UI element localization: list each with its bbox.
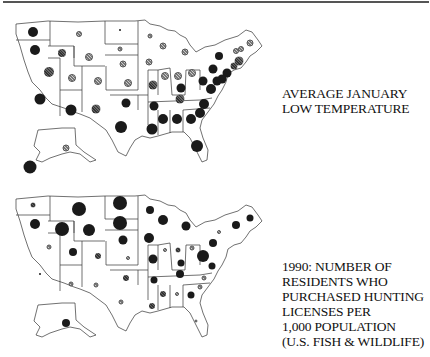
label-line: 1990: NUMBER OF [282,259,424,274]
state-symbol-il [163,248,167,252]
us-outline-bottom [0,0,270,357]
state-symbol-co [95,253,101,259]
state-symbol-mn [146,206,154,214]
state-symbol-la [149,303,155,309]
state-symbol-ky [178,260,185,267]
state-symbol-vt [232,221,240,229]
label-line: RESIDENTS WHO [282,274,424,289]
label-line: LICENSES PER [282,304,424,319]
state-symbol-fl [195,320,198,323]
state-symbol-id [55,222,69,236]
state-symbol-nc [202,276,207,281]
state-symbol-az [69,282,74,287]
state-symbol-mi [182,222,191,231]
state-symbol-ar [151,277,158,284]
state-symbol-tx [119,300,124,305]
state-symbol-ms [160,291,166,297]
label-line: AVERAGE JANUARY [282,86,409,101]
state-symbol-ca [39,273,41,275]
state-symbol-pa [209,239,217,247]
hunting-license-map-label: 1990: NUMBER OF RESIDENTS WHO PURCHASED … [282,259,424,349]
state-symbol-ny [217,230,221,234]
state-symbol-ia [144,233,154,243]
label-line: 1,000 POPULATION [282,319,424,334]
state-symbol-nv [47,245,52,250]
temperature-map-label: AVERAGE JANUARY LOW TEMPERATURE [282,86,409,116]
state-symbol-sd [113,216,127,230]
hunting-license-map [0,0,270,357]
state-symbol-wi [158,215,168,225]
state-symbol-me [247,215,254,222]
label-line: PURCHASED HUNTING [282,289,424,304]
state-symbol-al [175,292,179,296]
state-symbol-ne [119,236,128,245]
label-line: (U.S. FISH & WILDLIFE) [282,334,424,349]
state-symbol-va [209,263,216,270]
state-symbol-ut [69,248,77,256]
state-symbol-sc [198,285,203,290]
state-symbol-mt [72,202,86,216]
state-symbol-ga [188,292,195,299]
state-symbol-tn [176,270,184,278]
state-symbol-or [30,219,40,229]
state-symbol-wv [197,250,209,262]
state-symbol-nd [113,196,127,210]
state-symbol-oh [190,246,195,251]
state-symbol-in [176,248,181,253]
state-symbol-mo [149,255,158,264]
state-symbol-ok [123,275,129,281]
state-symbol-nm [94,283,99,288]
state-symbol-wy [83,224,95,236]
label-line: LOW TEMPERATURE [282,101,409,116]
state-symbol-ks [126,256,130,260]
state-symbol-ak [62,319,70,327]
state-symbol-wa [31,203,36,208]
